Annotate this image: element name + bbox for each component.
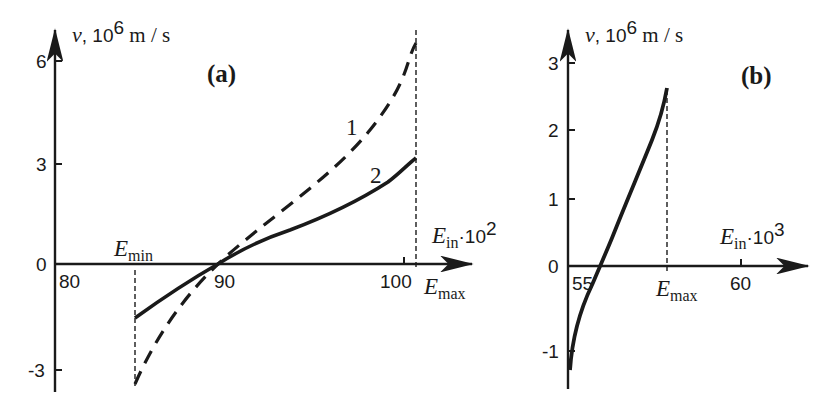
x-tick-label: 100 [380,271,412,292]
panel-b: 3 2 1 0 -1 55 60 v, 106 m / s Ein·103 (b… [542,17,808,389]
emin-label: Emin [113,236,153,264]
emax-label: Emax [423,274,466,302]
x-axis-label: Ein·102 [431,218,497,251]
curve-1-label: 1 [346,115,358,140]
panel-label: (a) [207,60,236,88]
y-tick-label: 2 [548,120,559,141]
y-tick-label: 3 [548,53,559,74]
curve [570,88,667,370]
y-tick-label: -3 [28,360,45,381]
curve-2-label: 2 [370,163,382,188]
y-axis-label: v, 106 m / s [72,17,170,47]
x-axis-label: Ein·103 [719,219,785,252]
y-tick-label: 0 [36,254,47,275]
figure: 6 3 0 -3 80 90 100 v, 106 m / s Ein·102 … [0,0,835,409]
y-tick-label: 6 [36,51,47,72]
y-tick-label: 1 [548,189,559,210]
curve-1 [135,43,416,384]
x-tick-label: 80 [59,271,80,292]
panel-label: (b) [741,62,772,90]
emax-label: Emax [655,276,698,304]
x-tick-label: 90 [214,271,235,292]
x-tick-label: 60 [730,273,751,294]
y-tick-label: 3 [36,154,47,175]
y-axis-label: v, 106 m / s [585,17,683,47]
panel-a: 6 3 0 -3 80 90 100 v, 106 m / s Ein·102 … [28,17,497,392]
y-tick-label: 0 [548,256,559,277]
y-tick-label: -1 [542,341,559,362]
